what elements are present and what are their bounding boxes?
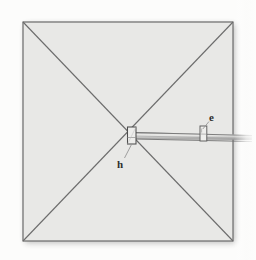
figure-container: h e	[0, 0, 256, 260]
technical-figure: h e	[0, 0, 256, 260]
paper-grain-overlay	[0, 0, 256, 260]
